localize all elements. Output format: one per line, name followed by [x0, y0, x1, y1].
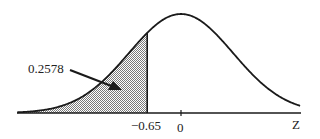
area-value-label: 0.2578 [28, 61, 64, 77]
tick-label-neg-065: −0.65 [131, 118, 161, 134]
tick-label-zero: 0 [177, 120, 184, 136]
axis-label-z: Z [292, 117, 300, 133]
